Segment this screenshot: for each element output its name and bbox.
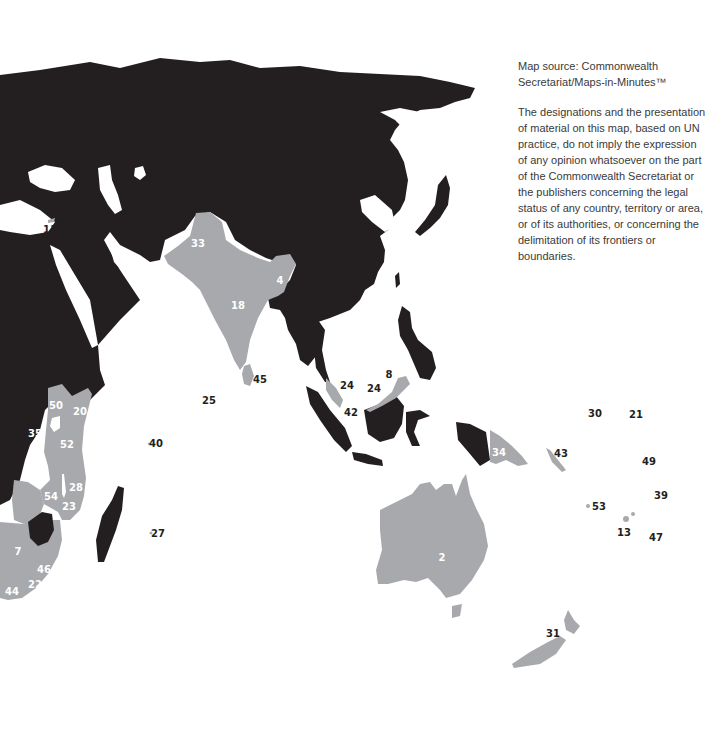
country-number-label: 43	[554, 449, 568, 459]
country-number-label: 30	[588, 409, 602, 419]
country-number-label: 31	[546, 629, 560, 639]
map-source-text: Map source: Commonwealth Secretariat/Map…	[518, 58, 708, 90]
country-number-label: 11	[43, 225, 57, 235]
madagascar	[96, 486, 124, 562]
country-number-label: 18	[231, 301, 245, 311]
country-number-label: 4	[277, 276, 284, 286]
new-zealand-north	[564, 610, 580, 634]
vanuatu	[586, 504, 590, 508]
malay-peninsula	[314, 320, 330, 382]
map-note: Map source: Commonwealth Secretariat/Map…	[518, 58, 708, 278]
new-zealand-south	[512, 636, 566, 668]
country-number-label: 47	[649, 533, 663, 543]
country-number-label: 24	[340, 381, 354, 391]
country-number-label: 49	[642, 457, 656, 467]
country-number-label: 23	[62, 502, 76, 512]
country-number-label: 20	[73, 407, 87, 417]
country-number-label: 52	[60, 440, 74, 450]
sulawesi	[406, 410, 430, 446]
country-number-label: 45	[253, 375, 267, 385]
country-number-label: 22	[28, 580, 42, 590]
country-number-label: 46	[37, 565, 51, 575]
map-disclaimer-text: The designations and the presentation of…	[518, 104, 708, 264]
country-number-label: 24	[367, 384, 381, 394]
country-number-label: 39	[654, 491, 668, 501]
papua-indonesia	[456, 422, 490, 466]
country-number-label: 35	[28, 429, 42, 439]
java	[352, 452, 383, 466]
country-number-label: 28	[69, 483, 83, 493]
fiji-2	[631, 512, 635, 516]
country-number-label: 8	[386, 370, 393, 380]
country-number-label: 21	[629, 410, 643, 420]
country-number-label: 54	[44, 492, 58, 502]
country-number-label: 40	[149, 439, 163, 449]
fiji	[623, 516, 629, 522]
australia	[376, 474, 488, 598]
tasmania	[452, 604, 462, 618]
taiwan	[395, 272, 400, 288]
country-number-label: 34	[492, 448, 506, 458]
country-number-label: 2	[439, 553, 446, 563]
country-number-label: 44	[5, 587, 19, 597]
country-number-label: 25	[202, 396, 216, 406]
country-number-label: 50	[49, 401, 63, 411]
sumatra	[306, 386, 352, 452]
country-number-label: 13	[617, 528, 631, 538]
country-number-label: 33	[191, 239, 205, 249]
country-number-label: 53	[592, 502, 606, 512]
country-number-label: 42	[344, 408, 358, 418]
country-number-label: 27	[151, 529, 165, 539]
philippines	[398, 306, 436, 380]
country-number-label: 7	[15, 547, 22, 557]
japan	[415, 175, 450, 236]
